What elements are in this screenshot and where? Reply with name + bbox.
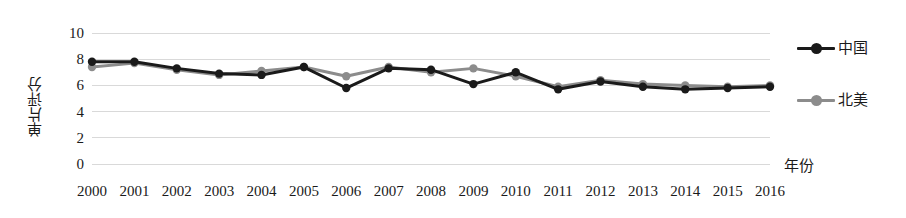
y-axis-title: 单片评分 <box>24 52 46 162</box>
data-point <box>723 84 731 92</box>
x-axis-tick-label: 2011 <box>543 183 572 200</box>
x-axis-tick-label: 2004 <box>247 183 277 200</box>
data-point <box>88 58 96 66</box>
x-axis-tick-label: 2015 <box>713 183 743 200</box>
x-axis-tick-label: 2006 <box>331 183 361 200</box>
data-point <box>427 65 435 73</box>
y-axis-tick-label: 4 <box>77 104 85 119</box>
legend-marker-icon <box>811 43 822 54</box>
data-point <box>384 64 392 72</box>
x-axis-tick-label: 2003 <box>204 183 234 200</box>
data-point <box>342 72 350 80</box>
x-axis-tick-labels: 2000200120022003200420052006200720082009… <box>92 183 770 207</box>
legend-swatch-icon <box>797 93 835 107</box>
x-axis-tick-label: 2002 <box>162 183 192 200</box>
line-chart: 单片评分 0246810 200020012002200320042005200… <box>0 0 906 218</box>
data-point <box>469 80 477 88</box>
series-north-america <box>88 59 774 91</box>
legend-label: 北美 <box>838 93 868 108</box>
x-axis-tick-label: 2009 <box>458 183 488 200</box>
data-point <box>681 85 689 93</box>
data-point <box>130 58 138 66</box>
x-axis-tick-label: 2007 <box>374 183 404 200</box>
x-axis-title: 年份 <box>784 154 814 175</box>
x-axis-tick-label: 2001 <box>119 183 149 200</box>
y-axis-tick-label: 2 <box>77 130 85 145</box>
x-axis-tick-label: 2014 <box>670 183 700 200</box>
data-point <box>173 64 181 72</box>
data-point <box>512 68 520 76</box>
data-point <box>469 64 477 72</box>
legend-label: 中国 <box>838 41 868 56</box>
data-point <box>342 84 350 92</box>
y-axis-tick-label: 8 <box>77 52 85 67</box>
x-axis-tick-label: 2000 <box>77 183 107 200</box>
plot-area <box>92 33 770 164</box>
x-axis-tick-label: 2016 <box>755 183 785 200</box>
legend-item-north-america[interactable]: 北美 <box>797 92 868 108</box>
x-axis-tick-label: 2013 <box>628 183 658 200</box>
data-point <box>639 83 647 91</box>
data-point <box>257 71 265 79</box>
y-axis-tick-label: 10 <box>69 26 84 41</box>
y-axis-tick-label: 6 <box>77 78 85 93</box>
x-axis-tick-label: 2010 <box>501 183 531 200</box>
data-point <box>300 63 308 71</box>
x-axis-tick-label: 2005 <box>289 183 319 200</box>
legend-item-china[interactable]: 中国 <box>797 40 868 56</box>
legend-swatch-icon <box>797 41 835 55</box>
plot-svg <box>92 33 770 164</box>
data-point <box>766 83 774 91</box>
data-point <box>215 69 223 77</box>
legend-marker-icon <box>811 95 822 106</box>
x-axis-tick-label: 2012 <box>586 183 616 200</box>
y-axis-tick-label: 0 <box>77 157 85 172</box>
data-point <box>596 77 604 85</box>
x-axis-tick-label: 2008 <box>416 183 446 200</box>
data-point <box>554 85 562 93</box>
